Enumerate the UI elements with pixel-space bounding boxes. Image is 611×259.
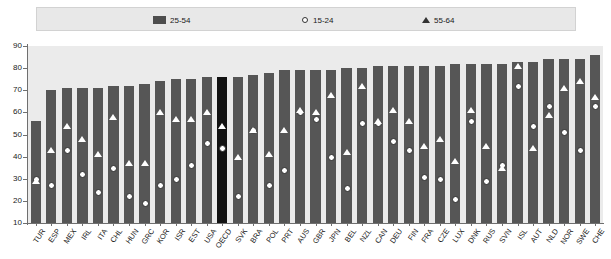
marker-55-64 (187, 116, 195, 122)
bar-column (512, 46, 522, 223)
y-axis-tick-label: 30 (0, 174, 22, 183)
x-axis-tick-label: LUX (451, 227, 467, 244)
bar-25-54 (373, 66, 383, 223)
marker-55-64 (467, 107, 475, 113)
x-axis-tick (331, 223, 332, 226)
bar-column (77, 46, 87, 223)
x-axis-tick-label: SVK (233, 227, 249, 244)
bar-column (264, 46, 274, 223)
marker-15-24 (344, 185, 351, 192)
marker-55-64 (389, 107, 397, 113)
marker-55-64 (249, 127, 257, 133)
x-axis-tick-label: NLD (544, 227, 560, 244)
marker-15-24 (95, 189, 102, 196)
marker-15-24 (142, 200, 149, 207)
y-axis-tick-label: 80 (0, 63, 22, 72)
x-axis-tick (424, 223, 425, 226)
x-axis-tick (238, 223, 239, 226)
bar-25-54 (497, 64, 507, 223)
bar-25-54 (233, 77, 243, 223)
x-axis-tick-label: BRA (248, 227, 264, 245)
marker-15-24 (577, 147, 584, 154)
marker-55-64 (514, 63, 522, 69)
marker-55-64 (296, 107, 304, 113)
marker-55-64 (482, 143, 490, 149)
marker-55-64 (560, 85, 568, 91)
x-axis-tick (51, 223, 52, 226)
x-axis-tick-label: ISR (172, 227, 187, 242)
bar-25-54 (357, 68, 367, 223)
bar-swatch-icon (153, 16, 166, 24)
x-axis-tick (129, 223, 130, 226)
diamond-marker-icon (302, 17, 309, 24)
y-axis-tick (23, 135, 28, 136)
bar-column (171, 46, 181, 223)
x-axis-tick-label: CHL (109, 227, 125, 244)
marker-55-64 (498, 165, 506, 171)
x-axis-tick (160, 223, 161, 226)
bar-column (279, 46, 289, 223)
y-axis-tick (23, 90, 28, 91)
marker-15-24 (328, 154, 335, 161)
x-axis-tick-label: AUT (528, 227, 544, 244)
marker-15-24 (592, 103, 599, 110)
marker-55-64 (529, 145, 537, 151)
x-axis-tick-label: DNK (466, 227, 482, 245)
x-axis-tick-label: POL (264, 227, 280, 244)
marker-55-64 (358, 83, 366, 89)
bar-25-54 (466, 64, 476, 223)
y-axis-tick (23, 46, 28, 47)
marker-55-64 (265, 151, 273, 157)
x-axis-tick-label: GRC (139, 227, 156, 246)
x-axis-tick-label: ESP (47, 227, 63, 244)
x-axis-tick (284, 223, 285, 226)
bar-column (217, 46, 227, 223)
bar-25-54 (528, 62, 538, 224)
marker-55-64 (312, 109, 320, 115)
x-axis-tick (145, 223, 146, 226)
y-axis-tick (23, 201, 28, 202)
legend-label-25-54: 25-54 (170, 16, 190, 25)
x-axis-tick-label: HUN (124, 227, 141, 245)
bar-25-54 (31, 121, 41, 223)
legend-label-15-24: 15-24 (313, 16, 333, 25)
bar-column (248, 46, 258, 223)
x-axis-tick-label: NOR (559, 227, 576, 246)
marker-55-64 (94, 151, 102, 157)
bar-column (575, 46, 585, 223)
legend-label-55-64: 55-64 (434, 16, 454, 25)
marker-55-64 (420, 143, 428, 149)
bar-column (543, 46, 553, 223)
bar-column (93, 46, 103, 223)
y-axis-tick (23, 179, 28, 180)
chart-figure: 25-54 15-24 55-64 908070605040302010 TUR… (0, 0, 611, 259)
x-axis-tick (595, 223, 596, 226)
y-axis-tick-label: 70 (0, 85, 22, 94)
x-axis-tick (409, 223, 410, 226)
x-axis-tick (347, 223, 348, 226)
y-axis-tick-label: 50 (0, 130, 22, 139)
x-axis-tick-label: CAN (373, 227, 389, 245)
bar-column (497, 46, 507, 223)
plot-area (28, 46, 603, 223)
marker-55-64 (234, 154, 242, 160)
x-axis-tick-label: EST (187, 227, 203, 244)
marker-55-64 (374, 118, 382, 124)
bar-25-54 (295, 70, 305, 223)
bar-25-54 (559, 59, 569, 223)
marker-55-64 (125, 160, 133, 166)
x-axis-tick-label: BEL (342, 227, 358, 244)
bar-25-54 (279, 70, 289, 223)
marker-55-64 (141, 160, 149, 166)
x-axis-tick (191, 223, 192, 226)
marker-55-64 (109, 114, 117, 120)
bar-column (139, 46, 149, 223)
x-axis-tick-label: KOR (155, 227, 172, 245)
marker-55-64 (343, 149, 351, 155)
bar-25-54 (186, 79, 196, 223)
marker-55-64 (78, 136, 86, 142)
x-axis-tick-label: SVN (497, 227, 513, 245)
x-axis-tick-label: FRA (420, 227, 436, 244)
marker-55-64 (47, 147, 55, 153)
bar-column (295, 46, 305, 223)
